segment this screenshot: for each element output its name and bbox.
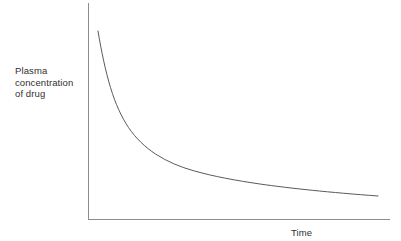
x-axis-label: Time: [291, 227, 312, 239]
concentration-decay-curve: [98, 31, 378, 196]
plot-area: [0, 0, 401, 241]
pharmacokinetics-figure: Plasma concentration of drug Time: [0, 0, 401, 241]
y-axis-label: Plasma concentration of drug: [15, 65, 85, 100]
